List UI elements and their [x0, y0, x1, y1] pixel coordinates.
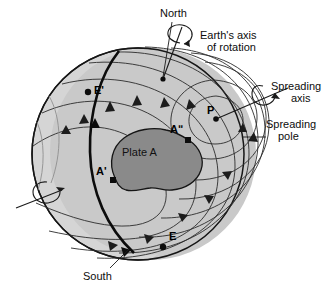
spreading-pole-label-line1: Spreading	[266, 118, 316, 130]
point-label-p: P	[207, 104, 214, 116]
spreading-pole-label-line2: pole	[278, 130, 299, 142]
point-marker-e	[160, 244, 166, 250]
point-marker-a-prime	[110, 177, 116, 183]
plate-a-label: Plate A	[122, 146, 158, 158]
north-label: North	[160, 7, 187, 19]
earth-axis-label-line2: of rotation	[207, 41, 256, 53]
point-marker-e-prime	[85, 89, 91, 95]
point-label-a-double-prime: Aʺ	[170, 123, 183, 135]
point-label-e-prime: E'	[94, 84, 104, 96]
spreading-axis-label-line1: Spreading	[271, 80, 321, 92]
spreading-axis-label-line2: axis	[291, 92, 311, 104]
earth-axis-label-line1: Earth's axis	[200, 29, 257, 41]
south-label: South	[83, 270, 112, 282]
point-label-e: E	[169, 230, 176, 242]
plate-tectonics-diagram: Plate A E' Aʺ A'	[0, 0, 328, 287]
point-label-a-prime: A'	[96, 165, 107, 177]
point-marker-a-double-prime	[185, 137, 191, 143]
rotation-arrow-head	[271, 93, 280, 99]
north-pole-dot	[160, 76, 165, 81]
rotation-arrow-head	[184, 40, 190, 47]
point-marker-p	[213, 116, 219, 122]
